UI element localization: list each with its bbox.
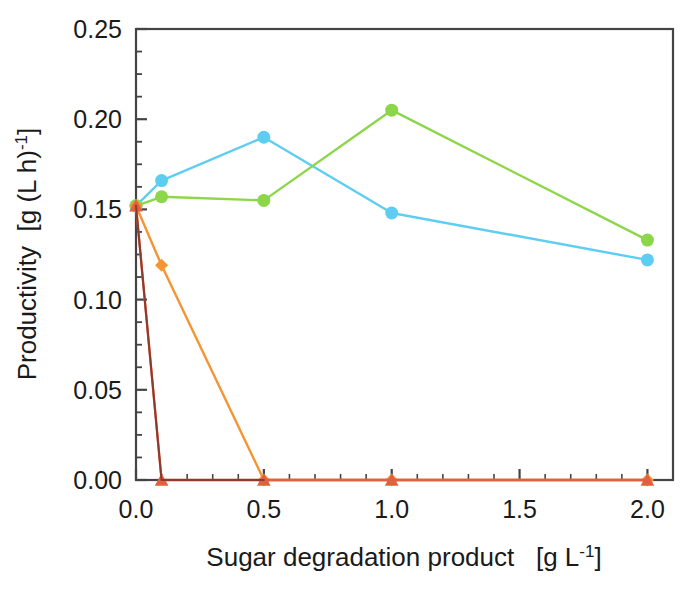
series-red [129,199,654,486]
y-tick-label: 0.15 [73,195,122,223]
y-tick-label: 0.20 [73,105,122,133]
data-series-layer [129,104,654,487]
series-green-marker [641,234,654,247]
productivity-vs-sugar-degradation-chart: 0.000.050.100.150.200.25 0.00.51.01.52.0… [0,0,698,595]
x-tick-label: 2.0 [630,495,665,523]
series-cyan-marker [257,131,270,144]
series-cyan-marker [385,207,398,220]
x-tick-label: 0.5 [246,495,281,523]
series-green-marker [385,104,398,117]
series-cyan-marker [641,253,654,266]
x-axis-title: Sugar degradation product [g L-1] [206,542,601,572]
y-tick-label: 0.00 [73,466,122,494]
y-tick-label: 0.10 [73,286,122,314]
svg-text:Sugar degradation product [g: Sugar degradation product [g L-1] [206,542,601,572]
y-axis-title: Productivity [g (L h)-1] [12,128,42,381]
series-green-line [136,110,647,240]
y-tick-label: 0.25 [73,15,122,43]
x-tick-label: 1.5 [502,495,537,523]
series-orange-marker [155,259,168,272]
y-axis-tick-labels: 0.000.050.100.150.200.25 [73,15,122,494]
x-axis-tick-labels: 0.00.51.01.52.0 [119,495,665,523]
series-orange [130,199,654,486]
series-green-marker [257,194,270,207]
y-tick-label: 0.05 [73,376,122,404]
series-green-marker [155,190,168,203]
x-tick-label: 1.0 [374,495,409,523]
figure-container: 0.000.050.100.150.200.25 0.00.51.01.52.0… [0,0,698,595]
plot-frame [136,29,673,480]
series-cyan-marker [155,174,168,187]
svg-text:Productivity [g (L h)-1]: Productivity [g (L h)-1] [12,128,42,381]
series-green [130,104,654,247]
x-tick-label: 0.0 [119,495,154,523]
